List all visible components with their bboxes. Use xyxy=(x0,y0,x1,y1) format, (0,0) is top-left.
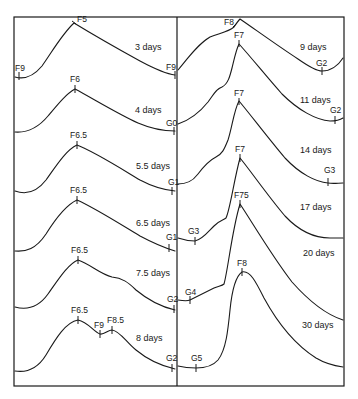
label-second-peak: F8.5 xyxy=(107,315,124,325)
label-end: G1 xyxy=(168,177,180,187)
label-start: G5 xyxy=(191,353,203,363)
curve-9-days: F8 G2 9 days xyxy=(178,17,343,75)
label-end: G0 xyxy=(166,118,178,128)
stage-curves-figure: F9 F5 F9 3 days F6 G0 4 days F6.5 G1 5.5… xyxy=(0,0,358,399)
label-start: F9 xyxy=(15,63,25,73)
curve-3-days: F9 F5 F9 3 days xyxy=(15,14,176,80)
label-peak: F8 xyxy=(224,17,234,27)
label-peak: F5 xyxy=(77,14,87,24)
label-end: G2 xyxy=(330,105,342,115)
curve-6-5-days: F6.5 G1 6.5 days xyxy=(15,185,178,252)
duration-label: 5.5 days xyxy=(136,161,171,171)
label-peak: F6.5 xyxy=(71,305,88,315)
curve-4-days: F6 G0 4 days xyxy=(15,74,178,135)
duration-label: 6.5 days xyxy=(136,218,171,228)
duration-label: 11 days xyxy=(300,95,331,105)
label-end: G3 xyxy=(324,165,336,175)
duration-label: 9 days xyxy=(300,42,327,52)
label-peak: F75 xyxy=(234,190,249,200)
duration-label: 17 days xyxy=(300,202,332,212)
curve-5-5-days: F6.5 G1 5.5 days xyxy=(15,130,180,195)
duration-label: 30 days xyxy=(302,320,334,330)
label-start: G3 xyxy=(188,226,200,236)
label-end: G1 xyxy=(166,232,178,242)
duration-label: 14 days xyxy=(300,145,332,155)
label-peak: F8 xyxy=(237,258,247,268)
curve-30-days: G5 F8 30 days xyxy=(178,258,343,372)
duration-label: 20 days xyxy=(303,248,335,258)
label-peak: F7 xyxy=(234,88,244,98)
label-peak: F6 xyxy=(70,74,80,84)
label-end: G2 xyxy=(166,353,178,363)
label-end: G2 xyxy=(167,294,179,304)
label-peak: F6.5 xyxy=(71,245,88,255)
figure-frame xyxy=(14,17,344,386)
curve-8-days: F6.5 F9 F8.5 G2 8 days xyxy=(15,305,178,372)
curve-17-days: G3 F7 17 days xyxy=(178,144,343,245)
label-start: G4 xyxy=(185,287,197,297)
curve-7-5-days: F6.5 G2 7.5 days xyxy=(15,245,179,313)
label-peak: F7 xyxy=(235,144,245,154)
label-end: F9 xyxy=(166,62,176,72)
label-end: G2 xyxy=(316,58,328,68)
label-peak: F6.5 xyxy=(70,130,87,140)
label-peak: F6.5 xyxy=(70,185,87,195)
duration-label: 4 days xyxy=(135,105,162,115)
duration-label: 3 days xyxy=(135,42,162,52)
label-peak: F7 xyxy=(234,30,244,40)
label-trough: F9 xyxy=(94,320,104,330)
duration-label: 7.5 days xyxy=(136,268,171,278)
duration-label: 8 days xyxy=(136,333,163,343)
